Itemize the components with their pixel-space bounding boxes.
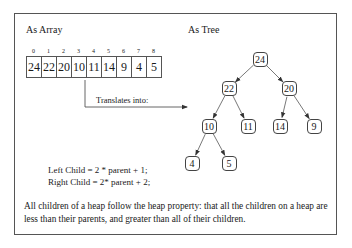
tree-node: 14 bbox=[273, 119, 288, 134]
tree-node: 9 bbox=[307, 119, 322, 134]
tree-edge bbox=[233, 96, 244, 118]
tree-edge bbox=[213, 96, 225, 118]
right-child-formula: Right Child = 2* parent + 2; bbox=[48, 177, 150, 188]
tree-edge bbox=[294, 96, 309, 119]
tree-node: 5 bbox=[222, 156, 237, 171]
tree-node: 4 bbox=[185, 156, 200, 171]
tree-edges bbox=[196, 65, 309, 155]
tree-edge bbox=[266, 65, 282, 81]
heap-property-description: All children of a heap follow the heap p… bbox=[24, 200, 334, 226]
tree-node: 10 bbox=[202, 119, 217, 134]
tree-edge bbox=[213, 134, 224, 155]
tree-edge bbox=[236, 65, 254, 82]
translate-label: Translates into: bbox=[96, 94, 148, 106]
tree-node: 11 bbox=[241, 119, 256, 134]
tree-node: 24 bbox=[253, 52, 268, 67]
tree-edge bbox=[282, 97, 287, 117]
left-child-formula: Left Child = 2 * parent + 1; bbox=[48, 165, 147, 176]
tree-node: 20 bbox=[282, 81, 297, 96]
tree-edge bbox=[196, 134, 205, 155]
tree-node: 22 bbox=[222, 81, 237, 96]
